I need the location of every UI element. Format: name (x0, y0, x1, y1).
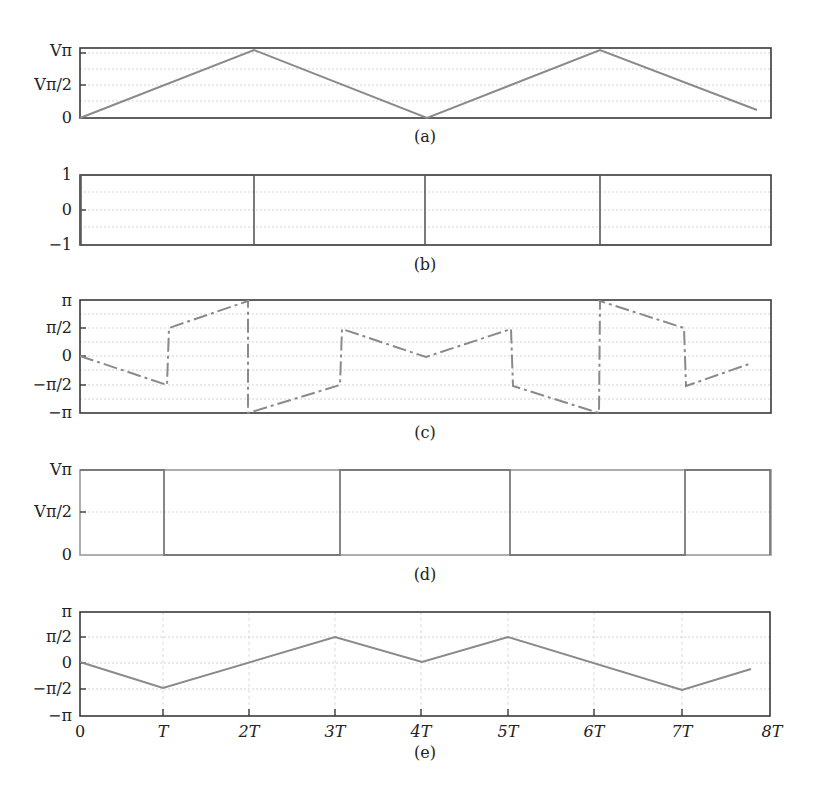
panel-d: Vπ Vπ/2 0 (d) (33, 460, 771, 585)
ytick-e-pi: π (61, 602, 72, 621)
ytick-e-pi2: π/2 (46, 627, 72, 646)
caption-d: (d) (414, 565, 437, 584)
ytick-b-neg1: −1 (48, 235, 72, 254)
ytick-a-vpi2: Vπ/2 (33, 75, 72, 94)
xtick-8T: 8T (762, 722, 784, 741)
trace-c (80, 301, 752, 413)
ytick-c-0: 0 (62, 346, 72, 365)
caption-c: (c) (414, 423, 435, 442)
ytick-c-negpi: −π (48, 403, 72, 422)
panel-e: π π/2 0 −π/2 −π 0 T 2T 3T 4T 5T 6T 7T 8T… (33, 602, 784, 763)
xtick-7T: 7T (672, 722, 694, 741)
ytick-d-vpi2: Vπ/2 (33, 502, 72, 521)
caption-b: (b) (414, 255, 437, 274)
ytick-c-pi2: π/2 (46, 318, 72, 337)
caption-a: (a) (414, 127, 436, 146)
ytick-d-0: 0 (62, 545, 72, 564)
plot-frame-d (80, 470, 771, 555)
ytick-b-0: 0 (62, 200, 72, 219)
xtick-5T: 5T (498, 722, 520, 741)
ytick-e-negpi2: −π/2 (33, 679, 73, 698)
panel-c: π π/2 0 −π/2 −π (c) (33, 291, 772, 443)
caption-e: (e) (414, 743, 436, 762)
xtick-3T: 3T (325, 722, 347, 741)
ytick-e-negpi: −π (48, 706, 72, 725)
ytick-d-vpi: Vπ (49, 460, 72, 479)
ytick-c-negpi2: −π/2 (33, 375, 73, 394)
xtick-2T: 2T (238, 722, 261, 741)
xtick-4T: 4T (410, 722, 433, 741)
trace-d (80, 470, 770, 555)
xtick-6T: 6T (584, 722, 606, 741)
xtick-0: 0 (75, 722, 85, 741)
plot-frame-a (80, 48, 771, 118)
panel-a: Vπ Vπ/2 0 (a) (33, 41, 771, 147)
panel-b: 1 0 −1 (b) (48, 165, 771, 275)
plot-frame-e (80, 612, 770, 716)
ytick-a-0: 0 (62, 108, 72, 127)
ytick-e-0: 0 (62, 653, 72, 672)
ytick-a-vpi: Vπ (49, 41, 72, 60)
ytick-c-pi: π (61, 291, 72, 310)
figure: Vπ Vπ/2 0 (a) 1 0 −1 (b) π π/2 0 −π/2 −π (0, 0, 822, 802)
xtick-T: T (158, 722, 170, 741)
trace-a (80, 50, 757, 118)
trace-e (80, 637, 751, 690)
ytick-b-1: 1 (62, 165, 72, 184)
